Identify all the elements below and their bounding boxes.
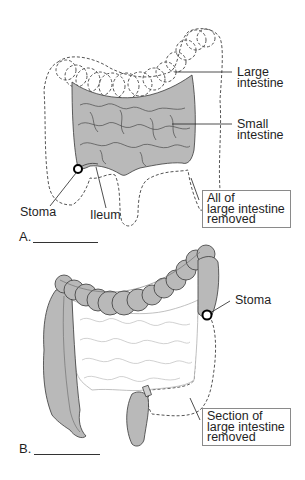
panel-letter-a: A.: [19, 229, 31, 244]
rectum-b: [127, 392, 149, 446]
small-intestine-b: [72, 300, 198, 391]
label-stoma-a: Stoma: [20, 207, 56, 218]
panel-letter-b: B.: [19, 441, 31, 456]
stoma-ring-b: [203, 311, 212, 320]
callout-box-b: Section of large intestine removed: [202, 408, 291, 446]
label-large-intestine: Large intestine: [237, 67, 284, 88]
label-ileum: Ileum: [90, 210, 121, 221]
callout-box-a: All of large intestine removed: [202, 190, 291, 228]
callout-a-line-3: removed: [207, 214, 287, 225]
label-stoma-b: Stoma: [235, 295, 271, 306]
stoma-ring-a: [74, 165, 82, 173]
answer-blank-a: [33, 242, 98, 243]
answer-blank-b: [34, 454, 100, 455]
callout-b-line-3: removed: [207, 432, 287, 443]
label-small-intestine: Small intestine: [237, 119, 284, 140]
descending-colon-stub-b: [198, 257, 219, 317]
